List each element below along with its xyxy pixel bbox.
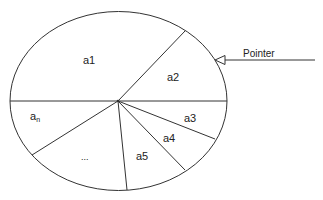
- segment-label-a3: a3: [184, 112, 196, 124]
- divider-a1-a2: [118, 31, 185, 101]
- wheel-center: [117, 100, 120, 103]
- pointer-label: Pointer: [243, 48, 275, 59]
- segment-label-a1: a1: [83, 54, 95, 66]
- segment-label-a2: a2: [167, 71, 179, 83]
- segment-label-ellipsis: ...: [81, 152, 89, 162]
- segment-label-a5: a5: [136, 150, 148, 162]
- segment-label-a4: a4: [163, 132, 175, 144]
- segment-label-an: an: [30, 110, 40, 123]
- roulette-wheel-diagram: a1 a2 a3 a4 a5 ... an Pointer: [0, 0, 323, 200]
- divider-a5-ellipsis: [118, 101, 127, 190]
- segment-label-an-subscript: n: [36, 116, 40, 123]
- divider-ellipsis-an: [32, 101, 118, 155]
